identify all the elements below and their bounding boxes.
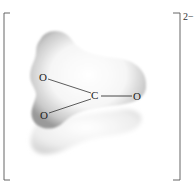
atom-oxygen-right: O	[133, 90, 141, 102]
right-bracket	[173, 13, 180, 180]
atom-carbon: C	[91, 89, 98, 101]
atom-oxygen-lower: O	[40, 109, 48, 121]
atom-oxygen-upper: O	[39, 71, 47, 83]
carbonate-diagram: O C O O 2−	[0, 0, 195, 194]
left-bracket	[4, 13, 10, 180]
ion-charge: 2−	[183, 11, 194, 22]
